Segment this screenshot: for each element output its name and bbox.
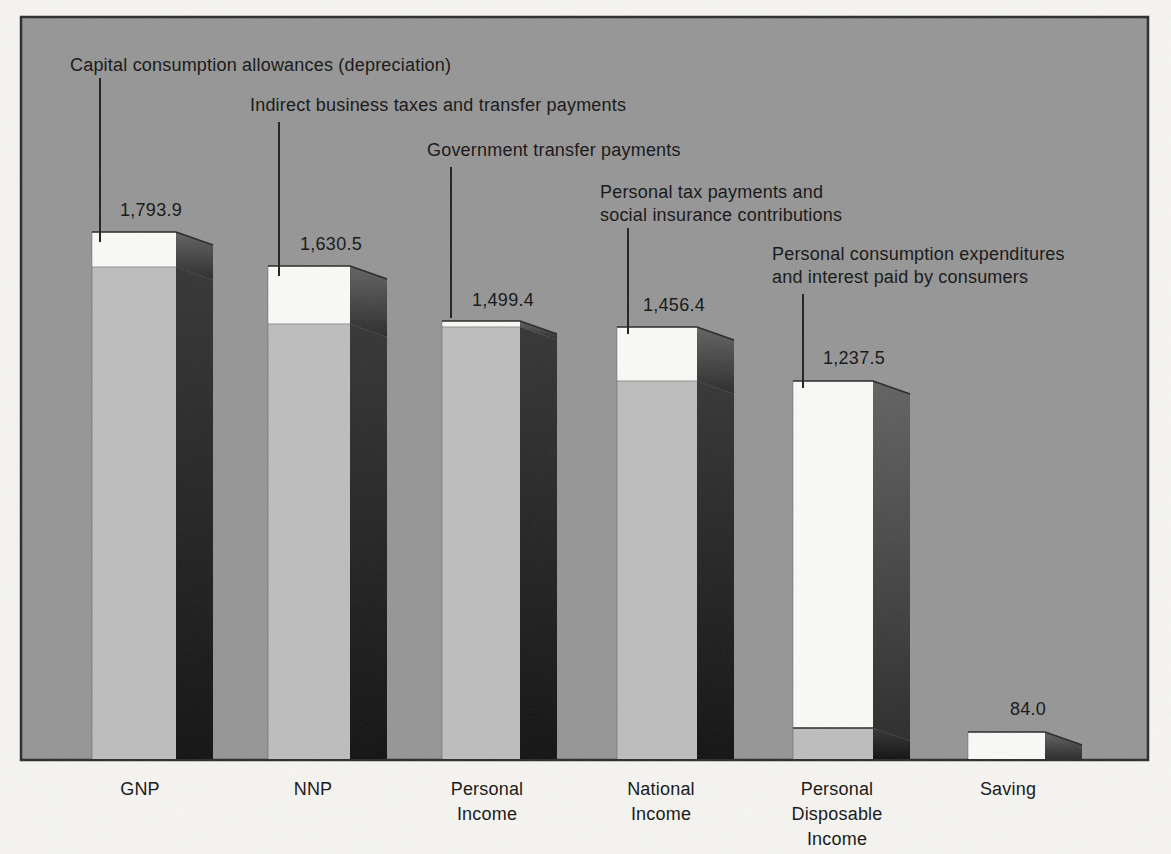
bar-front-white-personal-disposable-income	[793, 381, 873, 728]
bar-front-white-nnp	[268, 266, 350, 324]
bar-side-gray-national-income	[697, 381, 734, 759]
bar-front-white-personal-income	[442, 321, 520, 327]
bar-side-gray-gnp	[176, 267, 213, 759]
bar-side-gray-personal-income	[520, 327, 557, 759]
bar-front-gray-gnp	[92, 267, 176, 759]
bar-front-gray-nnp	[268, 324, 350, 759]
bar-front-white-gnp	[92, 232, 176, 267]
figure-stage: Capital consumption allowances (deprecia…	[0, 0, 1171, 854]
bar-side-white-personal-disposable-income	[873, 381, 910, 741]
bar-front-gray-personal-disposable-income	[793, 728, 873, 759]
chart-canvas	[0, 0, 1171, 854]
bar-side-gray-nnp	[350, 324, 387, 759]
bar-front-gray-national-income	[617, 381, 697, 759]
bar-front-gray-personal-income	[442, 327, 520, 759]
bar-front-white-national-income	[617, 327, 697, 381]
bar-front-white-saving	[968, 732, 1045, 759]
